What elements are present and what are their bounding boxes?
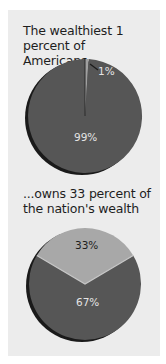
pie2-label-33: 33%: [75, 239, 98, 251]
pie2: 33% 67%: [26, 228, 141, 342]
pie1-label-99: 99%: [74, 131, 97, 143]
pie1: 1% 99%: [25, 59, 142, 175]
pie1-label-1: 1%: [98, 65, 115, 77]
pie2-label-67: 67%: [76, 296, 99, 308]
pie-charts: 1% 99% 33% 67%: [0, 0, 166, 364]
